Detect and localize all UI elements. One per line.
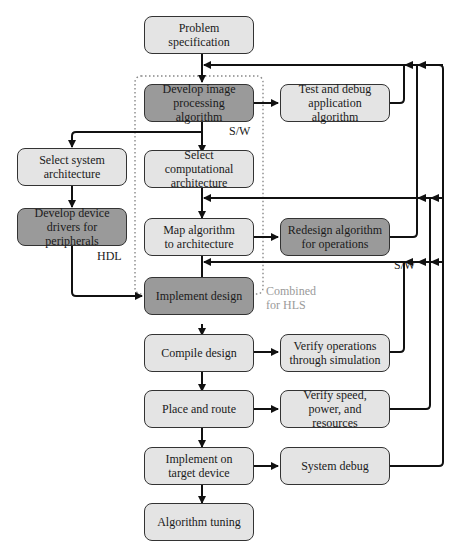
node-label: Develop image processing algorithm xyxy=(149,82,249,124)
node-label: Place and route xyxy=(162,402,236,416)
node-label: Select computational architecture xyxy=(149,148,249,190)
node-label: Implement on target device xyxy=(166,452,233,480)
node-test-debug: Test and debug application algorithm xyxy=(280,84,390,122)
node-algorithm-tuning: Algorithm tuning xyxy=(144,503,254,541)
node-implement-design: Implement design xyxy=(144,277,254,315)
node-label: Develop device drivers for peripherals xyxy=(22,206,122,248)
node-system-debug: System debug xyxy=(280,447,390,485)
node-implement-target: Implement on target device xyxy=(144,447,254,485)
annotation-hdl: HDL xyxy=(97,249,122,264)
node-place-route: Place and route xyxy=(144,390,254,428)
annotation-sw: S/W xyxy=(394,258,415,273)
node-verify-operations: Verify operations through simulation xyxy=(280,334,390,372)
node-develop-image-algorithm: Develop image processing algorithm xyxy=(144,84,254,122)
node-verify-speed: Verify speed, power, and resources xyxy=(280,390,390,428)
annotation-combined: Combined xyxy=(266,284,316,299)
node-label: System debug xyxy=(301,459,369,473)
node-compile-design: Compile design xyxy=(144,334,254,372)
node-redesign-algorithm: Redesign algorithm for operations xyxy=(280,218,390,256)
node-label: Test and debug application algorithm xyxy=(285,82,385,124)
node-label: Implement design xyxy=(156,289,242,303)
node-label: Verify speed, power, and resources xyxy=(285,388,385,430)
node-problem-specification: Problem specification xyxy=(144,16,254,54)
node-map-algorithm: Map algorithm to architecture xyxy=(144,218,254,256)
node-label: Algorithm tuning xyxy=(157,515,241,529)
node-select-system-architecture: Select system architecture xyxy=(17,148,127,186)
annotation-sw: S/W xyxy=(229,124,250,139)
node-label: Compile design xyxy=(161,346,237,360)
annotation-for-hls: for HLS xyxy=(266,298,306,313)
node-label: Map algorithm to architecture xyxy=(163,223,235,251)
node-label: Redesign algorithm for operations xyxy=(288,223,382,251)
node-label: Problem specification xyxy=(168,21,229,49)
node-label: Select system architecture xyxy=(39,153,105,181)
node-select-computational-architecture: Select computational architecture xyxy=(144,150,254,188)
node-label: Verify operations through simulation xyxy=(290,339,381,367)
node-develop-device-drivers: Develop device drivers for peripherals xyxy=(17,208,127,246)
